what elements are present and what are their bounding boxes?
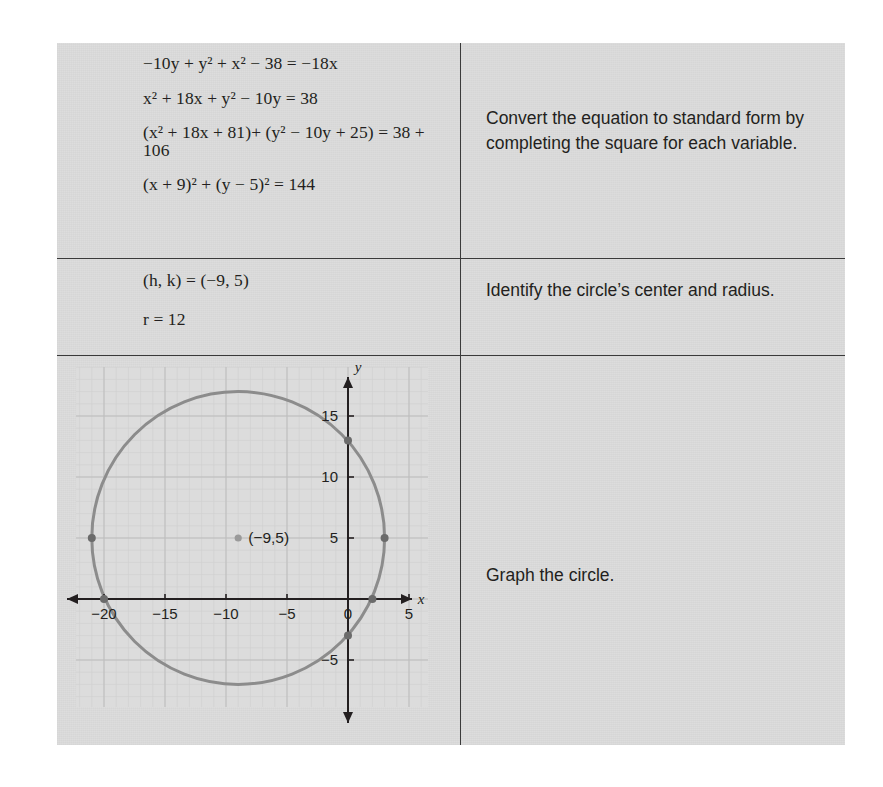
- instruction-cell-2: Identify the circle’s center and radius.: [461, 258, 845, 355]
- marked-point: [88, 534, 96, 542]
- instruction-cell-3: Graph the circle.: [461, 355, 845, 745]
- equation-line: −10y + y² + x² − 38 = −18x: [143, 55, 443, 73]
- equation-line: x² + 18x + y² − 10y = 38: [143, 90, 443, 108]
- equation-line: (h, k) = (−9, 5): [143, 272, 443, 290]
- equation-list-2: (h, k) = (−9, 5) r = 12: [143, 272, 443, 349]
- circle-graph: xy−20−15−10−505−551015(−9,5): [57, 355, 460, 745]
- marked-point: [381, 534, 389, 542]
- work-cell-1: −10y + y² + x² − 38 = −18x x² + 18x + y²…: [57, 43, 460, 258]
- table-row: (h, k) = (−9, 5) r = 12 Identify the cir…: [57, 258, 845, 355]
- table-row: xy−20−15−10−505−551015(−9,5) Graph the c…: [57, 355, 845, 745]
- equation-line: (x² + 18x + 81)+ (y² − 10y + 25) = 38 + …: [143, 124, 443, 159]
- row-divider: [57, 258, 845, 259]
- center-point: [235, 534, 242, 541]
- y-tick-label: −5: [321, 651, 338, 668]
- procedure-table: −10y + y² + x² − 38 = −18x x² + 18x + y²…: [57, 43, 845, 745]
- coordinate-plane-svg: xy−20−15−10−505−551015(−9,5): [57, 355, 460, 745]
- instruction-text: Identify the circle’s center and radius.: [486, 278, 816, 303]
- x-tick-label: −5: [278, 605, 295, 622]
- graph-cell: xy−20−15−10−505−551015(−9,5): [57, 355, 460, 745]
- equation-list-1: −10y + y² + x² − 38 = −18x x² + 18x + y²…: [143, 55, 443, 194]
- x-axis-label: x: [417, 591, 425, 607]
- y-axis-label: y: [353, 359, 362, 375]
- equation-line: r = 12: [143, 311, 443, 329]
- column-divider: [460, 43, 461, 745]
- x-tick-label: −10: [213, 605, 238, 622]
- instruction-text: Graph the circle.: [486, 563, 816, 588]
- marked-point: [344, 632, 352, 640]
- y-tick-label: 10: [321, 468, 338, 485]
- center-point-label: (−9,5): [248, 529, 289, 546]
- x-tick-label: −15: [152, 605, 177, 622]
- marked-point: [368, 595, 376, 603]
- y-tick-label: 15: [321, 407, 338, 424]
- equation-line: (x + 9)² + (y − 5)² = 144: [143, 176, 443, 194]
- marked-point: [344, 436, 352, 444]
- x-tick-label: 0: [344, 605, 352, 622]
- x-tick-label: 5: [405, 605, 413, 622]
- row-divider: [57, 355, 845, 356]
- x-tick-label: −20: [91, 605, 116, 622]
- work-cell-2: (h, k) = (−9, 5) r = 12: [57, 258, 460, 355]
- table-row: −10y + y² + x² − 38 = −18x x² + 18x + y²…: [57, 43, 845, 258]
- instruction-text: Convert the equation to standard form by…: [486, 106, 816, 157]
- page-root: −10y + y² + x² − 38 = −18x x² + 18x + y²…: [0, 0, 883, 787]
- instruction-cell-1: Convert the equation to standard form by…: [461, 43, 845, 258]
- y-tick-label: 5: [330, 529, 338, 546]
- marked-point: [100, 595, 108, 603]
